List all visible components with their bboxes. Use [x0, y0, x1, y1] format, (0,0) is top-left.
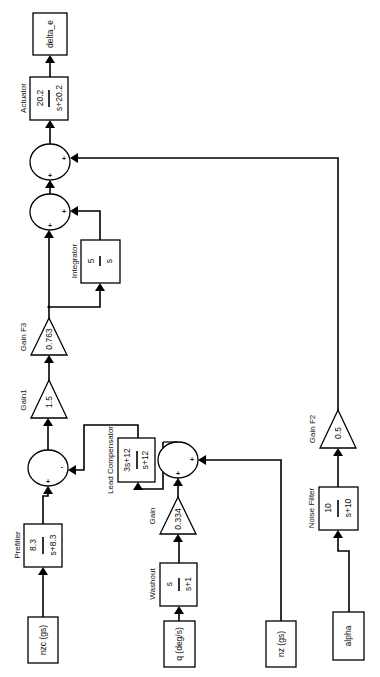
noise-filter-numerator: 10	[323, 503, 333, 513]
arrow-sum4-in	[173, 478, 183, 486]
arrow-deltae-in	[45, 55, 55, 63]
sum2-sign-bottom: +	[48, 222, 52, 229]
arrow-integrator-in	[95, 283, 105, 291]
wires	[43, 61, 349, 621]
sum3-block[interactable]: + +	[30, 144, 70, 180]
washout-block[interactable]: Washout s s+1	[148, 563, 197, 606]
gain-f3-name: Gain F3	[19, 322, 28, 351]
arrow-sum3-side	[70, 153, 78, 163]
lead-compensator-block[interactable]: Lead Compensator 3s+12 s+12	[106, 426, 155, 494]
prefilter-block[interactable]: Prefilter 8.3 s+8.3	[13, 524, 62, 567]
gain-name: Gain	[148, 508, 157, 525]
gain-block[interactable]: Gain 0.334	[148, 497, 196, 534]
sum3-sign-bottom: +	[48, 172, 52, 179]
sum3-sign-right: +	[62, 155, 66, 162]
wire-nz-sum4	[205, 460, 281, 621]
nz-label: nz (gs)	[276, 631, 286, 657]
arrow-washout-in	[174, 606, 184, 614]
lead-compensator-numerator: 3s+12	[122, 448, 132, 472]
wire-branch-integrator	[49, 290, 100, 307]
gain1-block[interactable]: Gain1 1.5	[19, 380, 67, 418]
actuator-block[interactable]: Actuator 20.2 s+20.2	[19, 77, 68, 120]
branch-point	[47, 305, 50, 308]
actuator-name: Actuator	[19, 83, 28, 113]
arrow-sum2-in	[44, 230, 54, 238]
noise-filter-name: Noise Filter	[307, 487, 316, 528]
noise-filter-block[interactable]: Noise Filter 10 s+10	[307, 487, 358, 530]
q-label: q (deg/s)	[174, 627, 184, 661]
prefilter-numerator: 8.3	[28, 539, 38, 551]
sum4-sign-right: +	[190, 456, 194, 463]
gain1-name: Gain1	[19, 389, 28, 411]
arrow-prefilter-in	[38, 567, 48, 575]
input-alpha[interactable]: alpha	[333, 612, 364, 660]
arrow-gainf2-in	[333, 448, 343, 456]
arrow-gain-in	[173, 534, 183, 542]
sum2-sign-right: +	[62, 208, 66, 215]
washout-numerator: s	[164, 582, 174, 586]
prefilter-name: Prefilter	[13, 531, 22, 559]
gain-f3-block[interactable]: Gain F3 0.763	[19, 318, 67, 355]
gain1-value: 1.5	[44, 396, 54, 408]
gain-f2-value: 0.5	[333, 427, 343, 439]
output-delta-e[interactable]: delta_e	[33, 13, 67, 55]
washout-denominator: s+1	[183, 577, 193, 591]
actuator-numerator: 20.2	[35, 89, 45, 106]
lead-compensator-name: Lead Compensator	[106, 426, 115, 494]
prefilter-denominator: s+8.3	[48, 534, 58, 555]
input-nzc[interactable]: nzc (gs)	[28, 617, 58, 663]
integrator-name: Integrator	[70, 244, 79, 279]
integrator-block[interactable]: Integrator 5 s	[70, 240, 120, 283]
gain-f2-name: Gain F2	[308, 414, 317, 443]
delta-e-label: delta_e	[45, 20, 55, 48]
arrow-actuator-in	[45, 120, 55, 128]
sum1-block[interactable]: + -	[28, 450, 68, 486]
gain-f2-block[interactable]: Gain F2 0.5	[308, 410, 356, 448]
integrator-denominator: s	[104, 259, 114, 263]
wire-alpha-noise	[338, 536, 349, 612]
wire-prefilter-sum1	[43, 492, 48, 524]
arrow-gain1-in	[43, 418, 53, 426]
washout-name: Washout	[148, 568, 157, 600]
gain-f3-value: 0.763	[44, 328, 54, 350]
arrow-sum1-in	[43, 486, 53, 494]
arrow-sum4-side	[198, 455, 206, 465]
arrow-lead-in	[133, 482, 143, 490]
input-nz[interactable]: nz (gs)	[266, 621, 296, 667]
block-diagram: delta_e Actuator 20.2 s+20.2 + + + + Int…	[0, 0, 380, 677]
integrator-numerator: 5	[86, 258, 96, 263]
arrow-sum2-side	[70, 206, 78, 216]
gain-value: 0.334	[173, 508, 183, 530]
input-q[interactable]: q (deg/s)	[164, 621, 195, 667]
arrow-sum3-in	[45, 180, 55, 188]
sum2-block[interactable]: + +	[30, 194, 70, 230]
sum4-block[interactable]: + +	[158, 442, 198, 478]
lead-compensator-denominator: s+12	[140, 450, 150, 469]
arrow-sum1-side	[68, 465, 76, 475]
wire-gainf2-sum3	[77, 158, 338, 410]
arrow-gainf3-in	[44, 355, 54, 363]
alpha-label: alpha	[343, 625, 353, 646]
arrow-noise-in	[333, 530, 343, 538]
sum4-sign-bottom: +	[176, 470, 180, 477]
sum1-sign-bottom: +	[46, 478, 50, 485]
nzc-label: nzc (gs)	[38, 625, 48, 655]
noise-filter-denominator: s+10	[343, 498, 353, 517]
actuator-denominator: s+20.2	[54, 85, 64, 111]
wire-integrator-sum2	[77, 211, 100, 240]
